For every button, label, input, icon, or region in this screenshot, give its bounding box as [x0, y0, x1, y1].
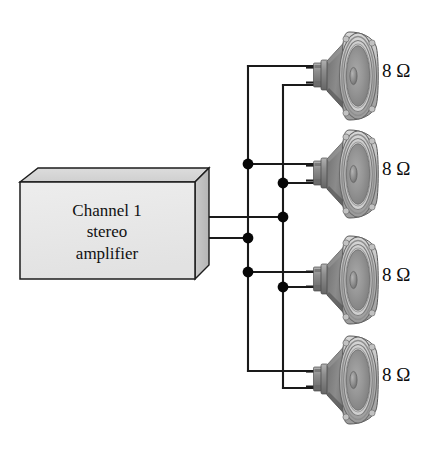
amplifier-label-line3: amplifier [76, 244, 139, 263]
amplifier-side-face [195, 168, 209, 279]
speaker-4-impedance-label: 8 Ω [382, 364, 410, 385]
junction-dot-amp-bottom [243, 233, 254, 244]
amplifier-top-face [20, 168, 209, 182]
speaker-3[interactable] [306, 236, 378, 324]
speaker-4[interactable] [306, 336, 378, 424]
junction-dot-amp-top [278, 212, 289, 223]
diagram-canvas: Channel 1 stereo amplifier 8 Ω 8 Ω 8 Ω 8… [0, 0, 443, 457]
amplifier-label-line2: stereo [87, 222, 128, 241]
amplifier-box[interactable]: Channel 1 stereo amplifier [20, 168, 209, 279]
wiring-group [196, 66, 313, 388]
amplifier-label-line1: Channel 1 [72, 201, 141, 220]
speaker-1-impedance-label: 8 Ω [382, 60, 410, 81]
speaker-3-impedance-label: 8 Ω [382, 264, 410, 285]
speaker-1[interactable] [306, 32, 378, 120]
speaker-2[interactable] [306, 130, 378, 218]
junction-dot-right-speaker3 [278, 282, 289, 293]
junction-dot-left-speaker3 [243, 267, 254, 278]
speaker-2-impedance-label: 8 Ω [382, 158, 410, 179]
circuit-diagram: Channel 1 stereo amplifier 8 Ω 8 Ω 8 Ω 8… [0, 0, 443, 457]
junction-dot-right-speaker2 [278, 178, 289, 189]
junction-dot-left-speaker2 [243, 159, 254, 170]
